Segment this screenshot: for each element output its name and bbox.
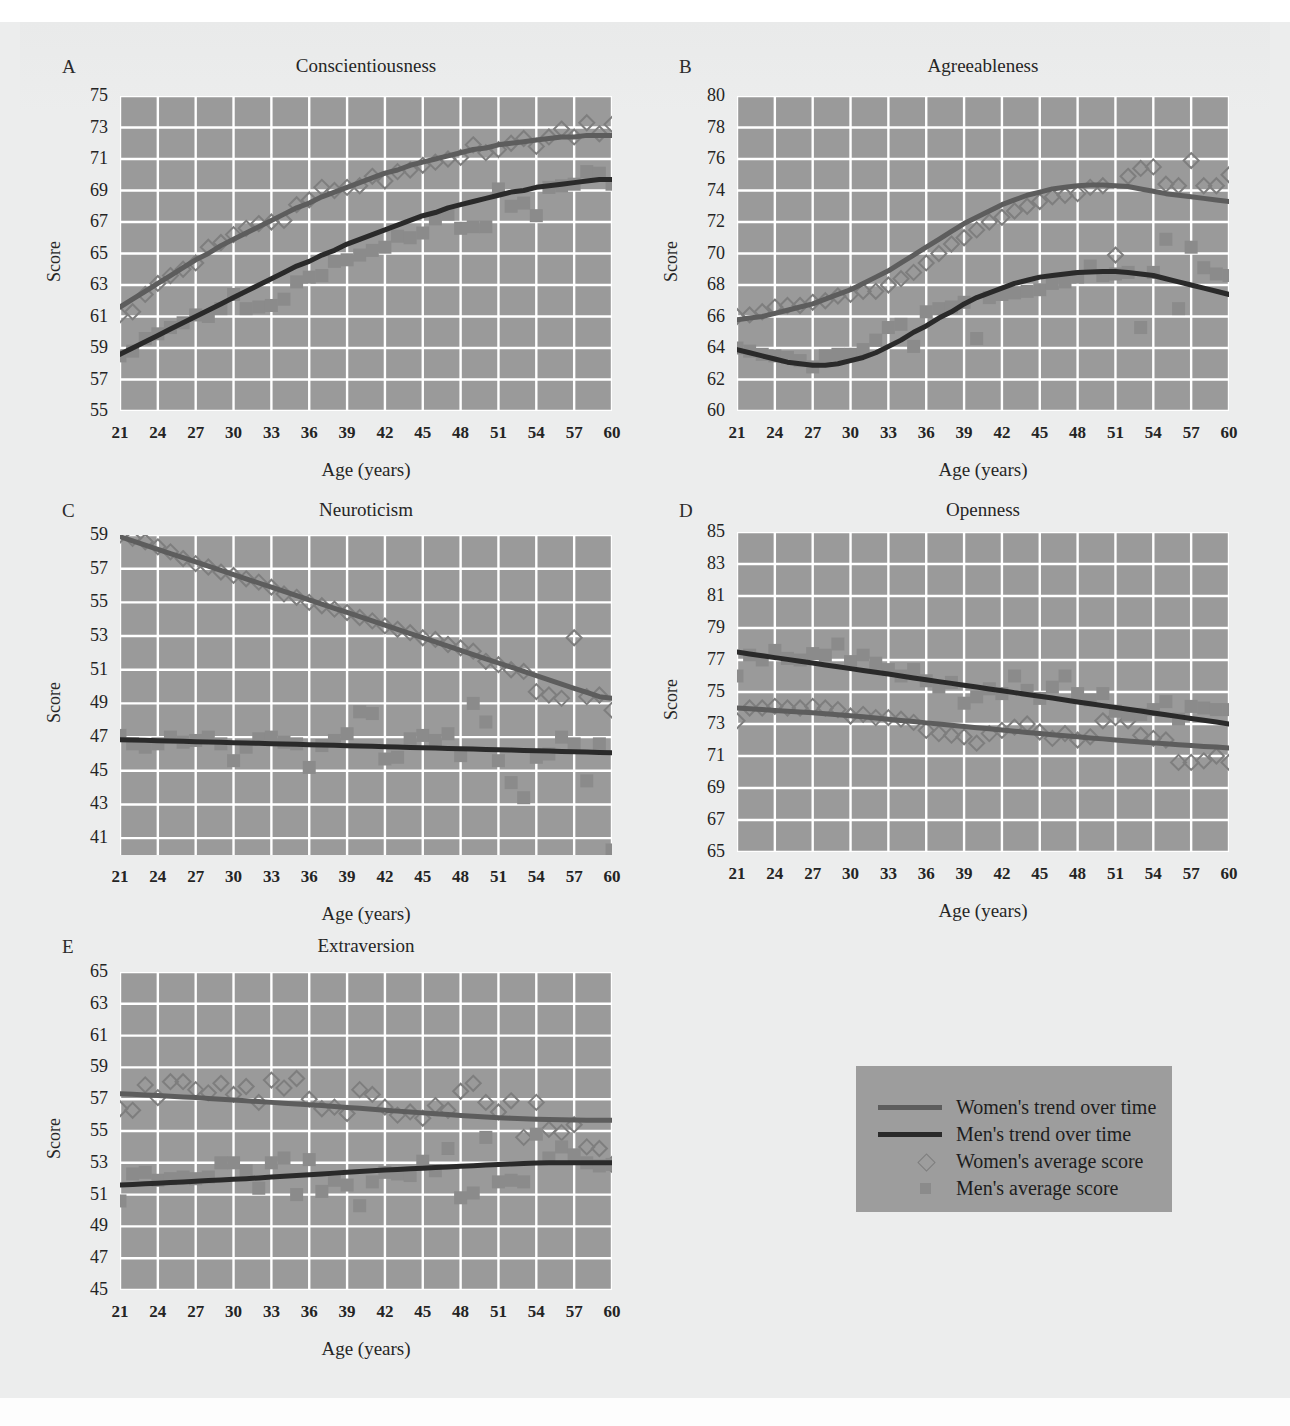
- x-tick-label: 36: [285, 423, 333, 443]
- y-tick-label: 72: [673, 211, 725, 232]
- x-tick-label: 30: [210, 423, 258, 443]
- x-tick-label: 45: [399, 423, 447, 443]
- x-tick-label: 57: [550, 867, 598, 887]
- plot-area-c: [120, 535, 612, 855]
- x-tick-label: 48: [437, 1302, 485, 1322]
- legend-line-icon: [878, 1105, 942, 1110]
- y-tick-label: 73: [673, 713, 725, 734]
- x-tick-label: 48: [1054, 423, 1102, 443]
- x-tick-label: 51: [474, 867, 522, 887]
- y-tick-label: 51: [56, 1184, 108, 1205]
- trend-lines: [120, 135, 612, 354]
- x-tick-label: 42: [978, 864, 1026, 884]
- y-tick-label: 55: [56, 591, 108, 612]
- plot-area-a: [120, 96, 612, 411]
- y-tick-label: 51: [56, 659, 108, 680]
- x-tick-label: 39: [323, 1302, 371, 1322]
- data-markers: [120, 1071, 612, 1212]
- legend-swatch-line-icon: [874, 1094, 946, 1121]
- y-tick-label: 45: [56, 760, 108, 781]
- y-tick-label: 45: [56, 1279, 108, 1300]
- y-tick-label: 59: [56, 524, 108, 545]
- trend-lines: [737, 652, 1229, 748]
- x-tick-label: 45: [399, 867, 447, 887]
- chart-panel-d: DOpennessScoreAge (years)656769717375777…: [0, 0, 1290, 1426]
- y-tick-label: 57: [56, 1088, 108, 1109]
- x-tick-label: 51: [474, 1302, 522, 1322]
- x-tick-label: 21: [713, 864, 761, 884]
- x-tick-label: 57: [1167, 423, 1215, 443]
- panel-title-e: Extraversion: [120, 935, 612, 957]
- y-tick-label: 78: [673, 117, 725, 138]
- x-tick-label: 39: [323, 423, 371, 443]
- y-axis-label-b: Score: [661, 241, 682, 282]
- x-tick-label: 33: [247, 423, 295, 443]
- x-tick-label: 21: [713, 423, 761, 443]
- legend-label: Men's trend over time: [956, 1121, 1131, 1148]
- x-tick-label: 54: [512, 423, 560, 443]
- x-tick-label: 24: [134, 867, 182, 887]
- y-tick-label: 59: [56, 1056, 108, 1077]
- plot-area-e: [120, 972, 612, 1290]
- x-tick-label: 42: [361, 867, 409, 887]
- chart-panel-c: CNeuroticismScoreAge (years)414345474951…: [0, 0, 1290, 1426]
- y-tick-label: 75: [673, 681, 725, 702]
- y-tick-label: 55: [56, 400, 108, 421]
- legend-item-2: Women's average score: [856, 1148, 1172, 1175]
- figure-page: AConscientiousnessScoreAge (years)555759…: [0, 0, 1290, 1426]
- y-tick-label: 65: [56, 243, 108, 264]
- y-axis-label-e: Score: [44, 1118, 65, 1159]
- chart-panel-e: EExtraversionScoreAge (years)45474951535…: [0, 0, 1290, 1426]
- y-tick-label: 79: [673, 617, 725, 638]
- scan-bottom-band: [0, 1398, 1290, 1426]
- x-tick-label: 60: [1205, 423, 1253, 443]
- x-tick-label: 42: [361, 1302, 409, 1322]
- y-tick-label: 67: [56, 211, 108, 232]
- data-markers: [120, 535, 612, 855]
- y-tick-label: 53: [56, 1152, 108, 1173]
- chart-panel-a: AConscientiousnessScoreAge (years)555759…: [0, 0, 1290, 1426]
- gridlines: [737, 532, 1229, 852]
- x-tick-label: 54: [512, 1302, 560, 1322]
- x-tick-label: 27: [172, 1302, 220, 1322]
- gridlines: [737, 96, 1229, 411]
- y-tick-label: 69: [673, 777, 725, 798]
- y-tick-label: 49: [56, 1215, 108, 1236]
- data-markers: [737, 153, 1229, 373]
- x-axis-label-e: Age (years): [120, 1338, 612, 1360]
- y-tick-label: 47: [56, 1247, 108, 1268]
- x-tick-label: 51: [1091, 864, 1139, 884]
- gridlines: [120, 96, 612, 411]
- y-tick-label: 55: [56, 1120, 108, 1141]
- x-tick-label: 30: [827, 423, 875, 443]
- x-tick-label: 51: [474, 423, 522, 443]
- x-tick-label: 24: [751, 864, 799, 884]
- x-tick-label: 39: [940, 864, 988, 884]
- y-tick-label: 60: [673, 400, 725, 421]
- legend-swatch-line-icon: [874, 1121, 946, 1148]
- y-tick-label: 85: [673, 521, 725, 542]
- x-tick-label: 36: [902, 423, 950, 443]
- y-tick-label: 64: [673, 337, 725, 358]
- y-tick-label: 83: [673, 553, 725, 574]
- x-tick-label: 27: [172, 867, 220, 887]
- x-tick-label: 39: [323, 867, 371, 887]
- x-tick-label: 60: [588, 423, 636, 443]
- plot-area-b: [737, 96, 1229, 411]
- y-tick-label: 63: [56, 274, 108, 295]
- trend-lines: [737, 185, 1229, 365]
- y-tick-label: 57: [56, 369, 108, 390]
- panel-letter-c: C: [62, 500, 75, 522]
- y-axis-label-d: Score: [661, 679, 682, 720]
- y-tick-label: 61: [56, 1025, 108, 1046]
- y-tick-label: 43: [56, 793, 108, 814]
- y-tick-label: 63: [56, 993, 108, 1014]
- data-markers: [737, 638, 1229, 770]
- trend-lines: [120, 537, 612, 753]
- x-tick-label: 48: [437, 423, 485, 443]
- x-tick-label: 30: [210, 1302, 258, 1322]
- x-tick-label: 48: [437, 867, 485, 887]
- panel-letter-d: D: [679, 500, 693, 522]
- legend-item-3: Men's average score: [856, 1175, 1172, 1202]
- x-tick-label: 33: [864, 423, 912, 443]
